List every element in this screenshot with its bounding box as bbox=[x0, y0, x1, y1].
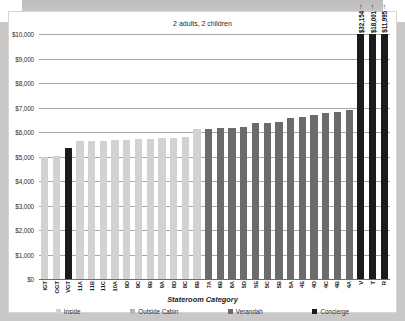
bar-slot bbox=[168, 34, 180, 279]
x-axis-tick-label: 7A bbox=[206, 281, 212, 288]
bar-slot bbox=[296, 34, 308, 279]
bar bbox=[334, 112, 341, 279]
bar-overflow-annotation: ↑$32,154 bbox=[357, 4, 364, 33]
bar bbox=[170, 138, 177, 279]
chart-title: 2 adults, 2 children bbox=[9, 20, 396, 27]
up-arrow-icon: ↑ bbox=[371, 4, 375, 10]
bar-slot bbox=[51, 34, 63, 279]
y-axis-tick-label: $2,000 bbox=[15, 227, 34, 234]
bar-slot bbox=[285, 34, 297, 279]
legend-swatch-icon bbox=[130, 309, 135, 314]
bar-slot bbox=[226, 34, 238, 279]
x-axis-tick-label: V bbox=[358, 281, 364, 285]
bar bbox=[123, 140, 130, 279]
bar-slot bbox=[261, 34, 273, 279]
bar bbox=[228, 128, 235, 279]
bar-value-label: $11,995 bbox=[381, 11, 388, 33]
bar bbox=[275, 122, 282, 279]
bar-series: ↑$32,154↑$18,001↑$11,995 bbox=[39, 34, 390, 279]
x-axis-tick-label: IGT bbox=[42, 281, 48, 291]
legend-item[interactable]: Verandah bbox=[228, 308, 263, 315]
bar bbox=[346, 110, 353, 279]
y-axis-tick-label: $8,000 bbox=[15, 80, 34, 87]
x-axis-tick-label: 5A bbox=[288, 281, 294, 288]
bar-slot bbox=[320, 34, 332, 279]
axis-baseline: $0 bbox=[39, 279, 390, 280]
y-axis-tick-label: $10,000 bbox=[12, 31, 34, 38]
bar bbox=[357, 34, 364, 279]
bar bbox=[65, 148, 72, 279]
chart-legend: InsideOutside CabinVerandahConcierge bbox=[9, 305, 396, 317]
x-axis-tick-label: 11B bbox=[89, 281, 95, 291]
bar bbox=[135, 139, 142, 279]
y-axis-tick-label: $3,000 bbox=[15, 202, 34, 209]
y-axis-tick-label: $1,000 bbox=[15, 251, 34, 258]
x-axis-tick-label: 10A bbox=[112, 281, 118, 292]
x-axis-tick-label: OGT bbox=[54, 281, 60, 293]
bar bbox=[193, 129, 200, 279]
chart-card: 2 adults, 2 children $10,000$9,000$8,000… bbox=[8, 11, 397, 313]
bar bbox=[182, 137, 189, 279]
legend-swatch-icon bbox=[312, 309, 317, 314]
bar bbox=[252, 123, 259, 279]
y-axis-tick-label: $5,000 bbox=[15, 153, 34, 160]
bar bbox=[310, 115, 317, 279]
y-axis-tick-label: $6,000 bbox=[15, 129, 34, 136]
x-axis-tick-label: 5E bbox=[253, 281, 259, 288]
bar-slot bbox=[273, 34, 285, 279]
plot-area: $10,000$9,000$8,000$7,000$6,000$5,000$4,… bbox=[39, 34, 390, 279]
bar bbox=[41, 157, 48, 280]
x-axis-tick-label: 9A bbox=[159, 281, 165, 288]
y-axis-tick-label: $7,000 bbox=[15, 104, 34, 111]
x-axis-tick-label: 5C bbox=[264, 281, 270, 288]
y-axis-tick-label: $0 bbox=[27, 276, 34, 283]
bar-slot bbox=[86, 34, 98, 279]
bar-slot: ↑$11,995 bbox=[378, 34, 390, 279]
bar-slot bbox=[179, 34, 191, 279]
bar-value-label: $18,001 bbox=[369, 11, 376, 33]
legend-swatch-icon bbox=[56, 309, 61, 314]
bar bbox=[100, 141, 107, 279]
x-axis-tick-label: T bbox=[370, 281, 376, 285]
legend-label: Inside bbox=[64, 308, 81, 315]
x-axis-tick-label: 6B bbox=[217, 281, 223, 288]
bar bbox=[299, 117, 306, 279]
x-axis-tick-label: 4D bbox=[311, 281, 317, 288]
bar-slot bbox=[215, 34, 227, 279]
x-axis-tick-label: 6A bbox=[229, 281, 235, 288]
y-axis-tick-label: $4,000 bbox=[15, 178, 34, 185]
x-axis-tick-label: 8D bbox=[171, 281, 177, 288]
bar bbox=[111, 140, 118, 279]
bar-slot bbox=[191, 34, 203, 279]
bar-overflow-annotation: ↑$18,001 bbox=[369, 4, 376, 33]
bar bbox=[76, 141, 83, 279]
bar-slot bbox=[62, 34, 74, 279]
bar-slot bbox=[156, 34, 168, 279]
x-axis-tick-label: 5B bbox=[276, 281, 282, 288]
bar bbox=[287, 118, 294, 279]
bar-slot: ↑$18,001 bbox=[367, 34, 379, 279]
bar-slot bbox=[238, 34, 250, 279]
legend-label: Concierge bbox=[320, 308, 349, 315]
bar-slot bbox=[343, 34, 355, 279]
x-axis-tick-label: 11A bbox=[77, 281, 83, 291]
x-axis-tick-label: 4C bbox=[323, 281, 329, 288]
x-axis-tick-label: 9D bbox=[124, 281, 130, 288]
x-axis-tick-label: 9B bbox=[147, 281, 153, 288]
x-axis-tick-label: R bbox=[381, 281, 387, 285]
bar bbox=[264, 123, 271, 279]
x-axis-tick-label: 9C bbox=[135, 281, 141, 288]
bar-slot bbox=[39, 34, 51, 279]
bar bbox=[217, 128, 224, 279]
x-axis-tick-label: VGT bbox=[65, 281, 71, 293]
bar-slot bbox=[109, 34, 121, 279]
bar bbox=[369, 34, 376, 279]
y-axis-tick-label: $9,000 bbox=[15, 55, 34, 62]
legend-item[interactable]: Concierge bbox=[312, 308, 349, 315]
legend-item[interactable]: Outside Cabin bbox=[130, 308, 178, 315]
x-axis-tick-label: 8B bbox=[194, 281, 200, 288]
x-axis-tick-label: 5D bbox=[241, 281, 247, 288]
screenshot-root: 2 adults, 2 children $10,000$9,000$8,000… bbox=[0, 0, 405, 321]
legend-item[interactable]: Inside bbox=[56, 308, 81, 315]
up-arrow-icon: ↑ bbox=[359, 4, 363, 10]
